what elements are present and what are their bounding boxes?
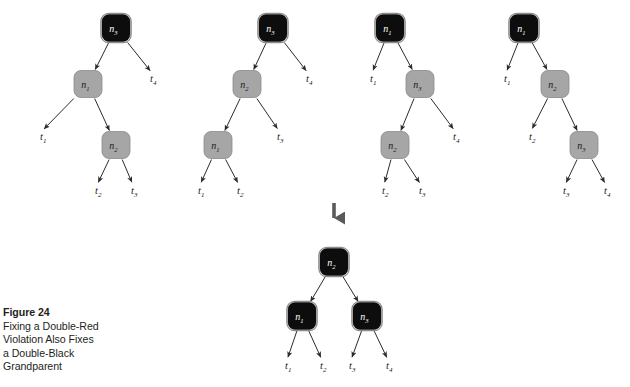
leaf-label-t1: t1 <box>285 360 291 374</box>
leaf-label-t2: t2 <box>320 360 327 374</box>
tree-node-n1-gray: n1 <box>74 71 102 98</box>
tree-node-n2-gray: n2 <box>233 71 261 98</box>
leaf-label-t2: t2 <box>95 185 102 199</box>
tree-edge-n1-to-t1 <box>507 43 518 71</box>
tree-edge-n1-to-n2 <box>532 43 547 70</box>
figure-number: Figure 24 <box>3 306 138 320</box>
leaf-label-t4: t4 <box>150 73 157 87</box>
tree-edge-n3-to-t4 <box>374 331 387 358</box>
tree-node-n1-gray: n1 <box>204 132 232 159</box>
leaf-label-t4: t4 <box>386 360 393 374</box>
tree-edge-n3-to-t4 <box>431 99 453 129</box>
tree-edge-n3-to-t3 <box>566 160 577 183</box>
tree-case-1: n3n1n2t4t1t2t3 <box>40 13 157 199</box>
tree-node-n3-black: n3 <box>101 13 131 42</box>
tree-edge-n1-to-n2 <box>95 99 110 131</box>
tree-edge-n1-to-t2 <box>226 160 238 183</box>
tree-edge-n2-to-t3 <box>257 99 277 129</box>
tree-edge-n3-to-t4 <box>128 43 151 71</box>
tree-edge-n3-to-n2 <box>401 99 414 131</box>
tree-edge-n2-to-t2 <box>532 99 547 129</box>
tree-node-n3-black: n3 <box>352 301 382 330</box>
tree-node-n1-black: n1 <box>509 13 539 42</box>
figure-description-line-4: Grandparent <box>3 360 138 374</box>
tree-edge-n2-to-t3 <box>122 160 132 183</box>
tree-node-n3-black: n3 <box>258 13 288 42</box>
leaf-label-t3: t3 <box>349 360 356 374</box>
leaf-label-t3: t3 <box>563 185 570 199</box>
tree-edge-n2-to-n3 <box>343 277 358 302</box>
figure-caption: Figure 24 Fixing a Double-Red Violation … <box>3 306 138 374</box>
leaf-label-t4: t4 <box>453 131 460 145</box>
tree-edge-n3-to-t4 <box>592 160 605 183</box>
tree-edge-n1-to-t1 <box>44 99 74 129</box>
tree-edge-n1-to-t2 <box>309 331 321 358</box>
tree-edge-n1-to-t1 <box>201 160 211 183</box>
leaf-label-t4: t4 <box>604 185 611 199</box>
leaf-label-t1: t1 <box>198 185 204 199</box>
tree-edge-n2-to-t3 <box>404 160 419 183</box>
tree-edge-n1-to-t1 <box>373 43 384 71</box>
tree-node-n2-gray: n2 <box>102 132 130 159</box>
leaf-label-t2: t2 <box>237 185 244 199</box>
leaf-label-t2: t2 <box>382 185 389 199</box>
tree-node-n2-gray: n2 <box>541 71 569 98</box>
leaf-label-t2: t2 <box>529 131 536 145</box>
tree-case-3: n1n3n2t1t4t2t3 <box>370 13 460 199</box>
tree-case-4: n1n2n3t1t2t3t4 <box>504 13 611 199</box>
leaf-label-t3: t3 <box>419 185 426 199</box>
leaf-label-t4: t4 <box>306 73 313 87</box>
leaf-label-t3: t3 <box>131 185 138 199</box>
tree-edge-n2-to-n1 <box>311 277 326 302</box>
tree-edge-n2-to-t2 <box>98 160 109 183</box>
tree-edge-n2-to-n3 <box>562 99 577 131</box>
leaf-label-t1: t1 <box>370 73 376 87</box>
tree-node-n1-black: n1 <box>375 13 405 42</box>
tree-case-2: n3n2n1t4t3t1t2 <box>198 13 313 199</box>
tree-result: n2n1n3t1t2t3t4 <box>285 247 393 374</box>
tree-edge-n2-to-n1 <box>225 99 240 131</box>
tree-edge-n1-to-t1 <box>288 331 297 358</box>
figure-description-line-2: Violation Also Fixes <box>3 333 138 347</box>
figure-container: n3n1n2t4t1t2t3n3n2n1t4t3t1t2n1n3n2t1t4t2… <box>0 0 630 387</box>
tree-node-n3-gray: n3 <box>570 132 598 159</box>
tree-node-n2-black: n2 <box>319 247 349 276</box>
tree-node-n1-black: n1 <box>287 301 317 330</box>
tree-edge-n2-to-t2 <box>385 160 391 183</box>
tree-edge-n3-to-n1 <box>95 43 109 70</box>
tree-node-n2-gray: n2 <box>381 132 409 159</box>
tree-node-n3-gray: n3 <box>406 71 434 98</box>
leaf-label-t1: t1 <box>504 73 510 87</box>
tree-edge-n3-to-t3 <box>352 331 362 358</box>
leaf-label-t3: t3 <box>277 131 284 145</box>
figure-description-line-1: Fixing a Double-Red <box>3 320 138 334</box>
leaf-label-t1: t1 <box>40 131 46 145</box>
figure-description-line-3: a Double-Black <box>3 347 138 361</box>
tree-edge-n3-to-n2 <box>254 43 267 70</box>
tree-edge-n3-to-t4 <box>284 43 306 71</box>
tree-edge-n1-to-n3 <box>398 43 412 70</box>
